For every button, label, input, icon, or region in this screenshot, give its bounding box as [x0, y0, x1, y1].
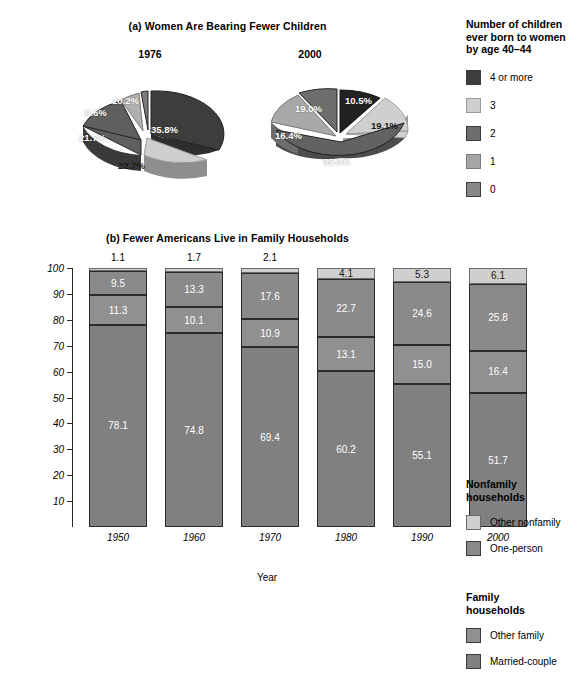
segment-value-one-person-1980: 22.7 [336, 303, 355, 314]
pie-year-2000: 2000 [280, 48, 340, 60]
segment-value-other-family-2000: 16.4 [488, 366, 507, 377]
x-axis-label: Year [72, 572, 462, 583]
legend-item-1: 1 [466, 154, 586, 169]
y-tick-40 [67, 423, 72, 424]
legend-spacer [466, 567, 586, 591]
segment-other-family-2000: 16.4 [469, 351, 527, 394]
segment-value-one-person-2000: 25.8 [488, 312, 507, 323]
y-tick-label-100: 100 [24, 263, 64, 274]
pie-2000-label-4plus: 10.5% [345, 95, 372, 106]
legend-title-line-1: Number of children [466, 18, 586, 31]
panel-a-pie-charts: (a) Women Are Bearing Fewer Children 197… [0, 0, 586, 220]
legend-item-4-or-more: 4 or more [466, 70, 586, 85]
segment-other-nonfamily-1980: 4.1 [317, 268, 375, 279]
x-tick-label-1950: 1950 [89, 532, 147, 543]
legend-swatch-icon-other-nonfamily [466, 515, 481, 530]
legend-item-married-couple: Married-couple [466, 654, 586, 669]
table-row: 1.7 13.3 10.1 74.8 1960 [165, 268, 223, 527]
y-tick-70 [67, 346, 72, 347]
pie-2000-label-3: 19.1% [371, 120, 398, 131]
segment-married-couple-1960: 74.8 [165, 333, 223, 527]
legend-item-one-person: One-person [466, 541, 586, 556]
segment-other-family-1980: 13.1 [317, 337, 375, 371]
y-tick-60 [67, 372, 72, 373]
legend-item-0: 0 [466, 182, 586, 197]
segment-one-person-1990: 24.6 [393, 282, 451, 346]
y-tick-label-10: 10 [24, 496, 64, 507]
segment-value-married-couple-1950: 78.1 [108, 420, 127, 431]
y-tick-label-80: 80 [24, 314, 64, 325]
legend-title-line-2: ever born to women [466, 31, 586, 44]
segment-value-one-person-1950: 9.5 [111, 278, 125, 289]
legend-item-2: 2 [466, 126, 586, 141]
segment-value-one-person-1960: 13.3 [184, 284, 203, 295]
segment-value-married-couple-1990: 55.1 [412, 450, 431, 461]
segment-married-couple-1980: 60.2 [317, 371, 375, 527]
panel-b-legend-family-title: Family households [466, 591, 586, 616]
table-row: 5.3 24.6 15.0 55.1 1990 [393, 268, 451, 527]
pie-1976-label-2: 21.7% [79, 132, 106, 143]
segment-value-other-family-1960: 10.1 [184, 315, 203, 326]
pie-chart-1976: 35.8% 22.7% 21.7% 9.6% 10.2% [55, 78, 250, 203]
legend-label-4-or-more: 4 or more [490, 72, 533, 83]
x-tick-label-1970: 1970 [241, 532, 299, 543]
y-tick-label-20: 20 [24, 470, 64, 481]
legend-label-other-family: Other family [490, 630, 544, 641]
segment-value-one-person-1990: 24.6 [412, 308, 431, 319]
legend-item-3: 3 [466, 98, 586, 113]
y-tick-label-70: 70 [24, 340, 64, 351]
legend-label-other-nonfamily: Other nonfamily [490, 517, 561, 528]
segment-value-married-couple-1980: 60.2 [336, 444, 355, 455]
y-tick-label-40: 40 [24, 418, 64, 429]
segment-one-person-1960: 13.3 [165, 272, 223, 306]
segment-other-family-1990: 15.0 [393, 345, 451, 384]
segment-one-person-1950: 9.5 [89, 271, 147, 296]
segment-value-other-nonfamily-1980: 4.1 [339, 268, 353, 279]
legend-label-3: 3 [490, 100, 496, 111]
y-tick-30 [67, 449, 72, 450]
legend-label-2: 2 [490, 128, 496, 139]
segment-value-other-family-1980: 13.1 [336, 349, 355, 360]
segment-value-other-family-1990: 15.0 [412, 359, 431, 370]
legend-family-line-1: Family [466, 591, 586, 604]
segment-value-married-couple-1970: 69.4 [260, 432, 279, 443]
y-tick-label-90: 90 [24, 288, 64, 299]
panel-b-title: (b) Fewer Americans Live in Family House… [0, 232, 455, 244]
legend-item-other-family: Other family [466, 628, 586, 643]
legend-swatch-icon-2 [466, 126, 481, 141]
y-axis-line [72, 268, 73, 527]
pie-2000-label-0: 19.0% [295, 103, 322, 114]
segment-one-person-2000: 25.8 [469, 284, 527, 351]
panel-a-title: (a) Women Are Bearing Fewer Children [0, 20, 455, 32]
segment-other-nonfamily-2000: 6.1 [469, 268, 527, 284]
legend-swatch-icon-other-family [466, 628, 481, 643]
segment-married-couple-1970: 69.4 [241, 347, 299, 527]
legend-title-line-3: by age 40–44 [466, 43, 586, 56]
legend-swatch-icon-1 [466, 154, 481, 169]
table-row: 1.1 9.5 11.3 78.1 1950 [89, 268, 147, 527]
pie-2000-label-1: 16.4% [275, 130, 302, 141]
pie-1976-label-1: 9.6% [85, 107, 107, 118]
legend-label-0: 0 [490, 184, 496, 195]
x-tick-label-1980: 1980 [317, 532, 375, 543]
segment-other-family-1950: 11.3 [89, 295, 147, 324]
legend-swatch-icon-4-or-more [466, 70, 481, 85]
segment-married-couple-1990: 55.1 [393, 384, 451, 527]
plot-area: 100 90 80 70 60 50 40 30 20 10 1.1 [72, 268, 462, 527]
segment-one-person-1980: 22.7 [317, 279, 375, 338]
y-tick-label-50: 50 [24, 392, 64, 403]
y-tick-label-30: 30 [24, 444, 64, 455]
legend-label-1: 1 [490, 156, 496, 167]
legend-swatch-icon-one-person [466, 541, 481, 556]
legend-swatch-icon-0 [466, 182, 481, 197]
pie-2000-svg [240, 76, 435, 201]
pie-2000-label-2: 35.0% [323, 156, 350, 167]
x-tick-label-1990: 1990 [393, 532, 451, 543]
y-tick-label-60: 60 [24, 366, 64, 377]
pie-1976-label-4plus: 35.8% [151, 124, 178, 135]
segment-other-family-1970: 10.9 [241, 319, 299, 347]
segment-value-one-person-1970: 17.6 [260, 291, 279, 302]
bar-total-1960: 1.7 [165, 252, 223, 263]
segment-other-family-1960: 10.1 [165, 307, 223, 334]
